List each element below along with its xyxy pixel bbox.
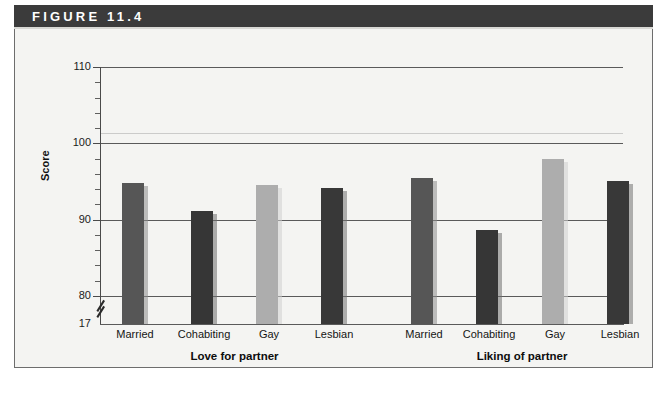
y-tick-label-80: 80 [51, 289, 91, 301]
group-label-liking-of-partner: Liking of partner [432, 350, 612, 362]
gridline-110 [101, 67, 623, 68]
bar-body [542, 159, 564, 324]
bar-love-for-partner-gay [256, 185, 282, 324]
y-axis-title: Score [39, 150, 51, 181]
y-tick-label-110: 110 [51, 60, 91, 72]
scan-artifact-line [101, 133, 623, 134]
y-tick-minor-102 [95, 128, 100, 129]
bar-body [122, 183, 144, 324]
category-label-lesbian: Lesbian [580, 328, 660, 340]
bar-love-for-partner-married [122, 183, 148, 324]
bar-liking-of-partner-lesbian [607, 181, 633, 324]
category-label-married: Married [95, 328, 175, 340]
bar-body [321, 188, 343, 324]
y-tick-label-90: 90 [51, 213, 91, 225]
category-label-lesbian: Lesbian [294, 328, 374, 340]
figure-header-bar: FIGURE 11.4 [14, 5, 653, 27]
y-tick-minor-84 [95, 265, 100, 266]
header-underline [14, 27, 653, 29]
x-axis-line [100, 324, 624, 325]
y-tick-minor-94 [95, 189, 100, 190]
y-tick-minor-82 [95, 281, 100, 282]
y-tick-minor-98 [95, 159, 100, 160]
bar-liking-of-partner-married [411, 178, 437, 324]
bar-body [256, 185, 278, 324]
plot-area [101, 67, 623, 324]
bar-liking-of-partner-cohabiting [476, 230, 502, 324]
y-tick-minor-92 [95, 204, 100, 205]
y-tick-minor-106 [95, 98, 100, 99]
bar-body [607, 181, 629, 324]
y-axis-tick-labels: 110100908017 [45, 6, 91, 346]
y-tick-minor-86 [95, 250, 100, 251]
y-tick-minor-88 [95, 235, 100, 236]
y-tick-major-100 [93, 143, 100, 144]
figure-header-label: FIGURE 11.4 [32, 9, 145, 24]
gridline-100 [101, 143, 623, 144]
y-tick-minor-96 [95, 174, 100, 175]
y-tick-minor-104 [95, 113, 100, 114]
group-label-love-for-partner: Love for partner [145, 350, 325, 362]
bar-body [191, 211, 213, 324]
bar-love-for-partner-lesbian [321, 188, 347, 324]
y-tick-major-110 [93, 67, 100, 68]
y-tick-label-100: 100 [51, 136, 91, 148]
y-tick-major-80 [93, 296, 100, 297]
figure-panel: 110100908017 Score MarriedCohabitingGayL… [14, 5, 653, 368]
bar-body [411, 178, 433, 324]
y-tick-minor-108 [95, 82, 100, 83]
y-tick-major-90 [93, 220, 100, 221]
bar-liking-of-partner-gay [542, 159, 568, 324]
bar-body [476, 230, 498, 324]
bar-love-for-partner-cohabiting [191, 211, 217, 324]
y-tick-label-17: 17 [51, 317, 91, 329]
